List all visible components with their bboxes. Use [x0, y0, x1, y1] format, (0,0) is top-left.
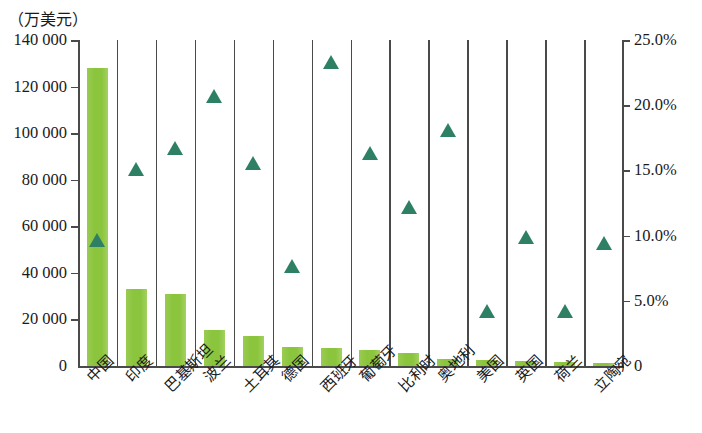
chart-container: （万美元） 020 00040 00060 00080 000100 00012…	[0, 0, 702, 433]
category-separator	[506, 40, 508, 366]
percentage-marker	[323, 55, 339, 69]
category-separator	[156, 40, 158, 366]
left-axis-tick	[71, 133, 78, 135]
left-axis-tick	[71, 226, 78, 228]
category-separator	[234, 40, 236, 366]
y-axis-unit-label: （万美元）	[8, 6, 88, 30]
left-axis-tick-label: 120 000	[0, 77, 67, 97]
bar	[87, 68, 108, 366]
left-axis-tick-label: 0	[0, 356, 67, 376]
percentage-marker	[128, 162, 144, 176]
category-separator	[273, 40, 275, 366]
right-axis-tick	[623, 170, 630, 172]
category-separator	[195, 40, 197, 366]
percentage-marker	[206, 89, 222, 103]
percentage-marker	[362, 146, 378, 160]
right-axis-tick	[623, 236, 630, 238]
bar	[165, 294, 186, 366]
left-axis-tick-label: 60 000	[0, 216, 67, 236]
right-axis-tick-label: 5.0%	[634, 291, 668, 311]
right-axis-tick	[623, 301, 630, 303]
category-separator	[117, 40, 119, 366]
left-axis-tick-label: 100 000	[0, 123, 67, 143]
percentage-marker	[557, 304, 573, 318]
percentage-marker	[284, 259, 300, 273]
category-separator	[428, 40, 430, 366]
percentage-marker	[401, 200, 417, 214]
right-axis-tick-label: 25.0%	[634, 30, 677, 50]
category-separator	[584, 40, 586, 366]
left-axis-tick-label: 40 000	[0, 263, 67, 283]
category-separator	[545, 40, 547, 366]
category-separator	[467, 40, 469, 366]
percentage-marker	[245, 156, 261, 170]
right-axis-tick-label: 20.0%	[634, 95, 677, 115]
right-axis-tick	[623, 40, 630, 42]
percentage-marker	[89, 233, 105, 247]
percentage-marker	[596, 236, 612, 250]
plot-area	[78, 40, 623, 366]
category-separator	[351, 40, 353, 366]
category-separator	[389, 40, 391, 366]
right-axis-tick-label: 10.0%	[634, 226, 677, 246]
right-axis-tick	[623, 105, 630, 107]
left-axis-tick	[71, 87, 78, 89]
category-separator	[312, 40, 314, 366]
left-axis-tick-label: 140 000	[0, 30, 67, 50]
left-axis-tick	[71, 319, 78, 321]
left-axis-tick-label: 80 000	[0, 170, 67, 190]
left-axis-tick-label: 20 000	[0, 309, 67, 329]
right-axis-tick-label: 15.0%	[634, 160, 677, 180]
percentage-marker	[479, 304, 495, 318]
percentage-marker	[167, 141, 183, 155]
right-axis-tick-label: 0	[634, 356, 642, 376]
percentage-marker	[518, 230, 534, 244]
left-axis-tick	[71, 40, 78, 42]
left-axis-tick	[71, 180, 78, 182]
left-axis-tick	[71, 273, 78, 275]
percentage-marker	[440, 123, 456, 137]
